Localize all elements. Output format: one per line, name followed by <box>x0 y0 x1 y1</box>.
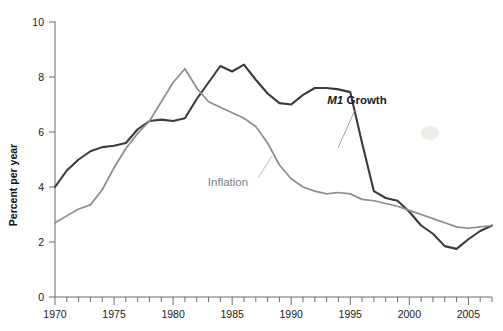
y-tick-label: 2 <box>38 236 44 248</box>
label-roman-part: Growth <box>343 94 386 106</box>
y-axis-title: Percent per year <box>7 144 19 226</box>
label-italic-part: M1 <box>327 94 343 106</box>
x-tick-label: 2000 <box>398 308 422 320</box>
x-tick-label: 2005 <box>457 308 481 320</box>
x-tick-label: 1990 <box>280 308 304 320</box>
x-tick-label: 1980 <box>161 308 185 320</box>
x-tick-label: 1975 <box>102 308 126 320</box>
y-tick-label: 8 <box>38 71 44 83</box>
y-tick-label: 0 <box>38 291 44 303</box>
y-tick-label: 10 <box>32 16 44 28</box>
y-tick-label: 4 <box>38 181 44 193</box>
inflation-label: Inflation <box>208 176 248 188</box>
x-tick-label: 1995 <box>339 308 363 320</box>
chart-container: 0246810 19701975198019851990199520002005… <box>0 0 503 331</box>
y-tick-label: 6 <box>38 126 44 138</box>
m1-growth-label: M1 Growth <box>327 94 386 106</box>
scan-artifact <box>421 126 439 140</box>
x-tick-label: 1970 <box>43 308 67 320</box>
line-chart: 0246810 19701975198019851990199520002005… <box>0 0 503 331</box>
chart-background <box>0 0 503 331</box>
x-tick-label: 1985 <box>220 308 244 320</box>
